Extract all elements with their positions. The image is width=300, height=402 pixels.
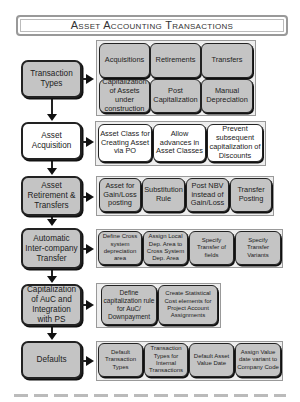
item-manual-depreciation: Manual Depreciation <box>201 79 253 113</box>
right-arrow-icon <box>86 244 94 254</box>
right-arrow-icon <box>86 300 94 310</box>
step-asset-retirement-transfers: Asset Retirement & Transfers <box>21 176 82 216</box>
right-arrow-icon <box>86 74 94 84</box>
down-arrow-icon <box>47 333 57 340</box>
down-arrow-icon <box>47 168 57 175</box>
item-assign-value-date-variant: Assign Value date variant to Company Cod… <box>235 343 281 377</box>
item-asset-gain-loss: Asset for Gain/Loss posting <box>99 178 141 212</box>
step-asset-acquisition: Asset Acquisition <box>21 122 82 160</box>
item-specify-transfer-fields: Specify Transfer of fields <box>189 231 234 265</box>
item-create-statistical-cost-elements: Create Statistical Cost elements for Pro… <box>158 285 218 325</box>
item-transfer-posting: Transfer Posting <box>230 178 272 212</box>
item-allow-advances: Allow advances in Asset Classes <box>153 124 206 162</box>
item-default-transaction-types: Default Transaction Types <box>98 343 143 377</box>
right-arrow-icon <box>86 192 94 202</box>
item-transaction-types-internal: Transaction Types for Internal Transacti… <box>144 343 188 377</box>
item-substitution-rule: Substitution Rule <box>142 178 185 212</box>
right-arrow-icon <box>86 356 94 366</box>
item-define-cross-system-area: Define Cross system depreciation area <box>98 231 142 265</box>
item-retirements: Retirements <box>150 43 201 78</box>
item-assign-local-dep-area: Assign Local Dep. Area to Cross System D… <box>143 231 188 265</box>
down-arrow-icon <box>47 114 57 121</box>
down-arrow-icon <box>47 219 57 226</box>
item-post-nbv: Post NBV instead of Gain/Loss <box>186 178 229 212</box>
item-define-capitalization-rule: Define capitalization rule for AuC/ Down… <box>101 285 157 325</box>
item-capitalization-auc: Capitalization of Assets under construct… <box>99 79 150 113</box>
step-transaction-types: Transaction Types <box>21 60 82 98</box>
item-default-asset-value-date: Default Asset Value Date <box>189 343 234 377</box>
item-acquisitions: Acquisitions <box>99 43 150 78</box>
item-transfers: Transfers <box>201 43 253 78</box>
diagram-title: Asset Accounting Transactions <box>16 15 288 36</box>
step-defaults: Defaults <box>21 341 82 379</box>
item-asset-class-po: Asset Class for Creating Asset via PO <box>98 124 152 162</box>
item-prevent-capitalization-discounts: Prevent subsequent capitalization of Dis… <box>207 124 263 162</box>
connector-line <box>51 97 53 115</box>
down-arrow-icon <box>47 276 57 283</box>
item-post-capitalization: Post Capitalization <box>150 79 201 113</box>
caption-text-faint <box>14 394 286 397</box>
step-intercompany-transfer: Automatic Inter-company Transfer <box>21 228 82 269</box>
step-capitalization-auc-ps: Capitalization of AuC and Integration wi… <box>21 284 82 326</box>
right-arrow-icon <box>86 137 94 147</box>
item-specify-transfer-variants: Specify Transfer Variants <box>235 231 281 265</box>
